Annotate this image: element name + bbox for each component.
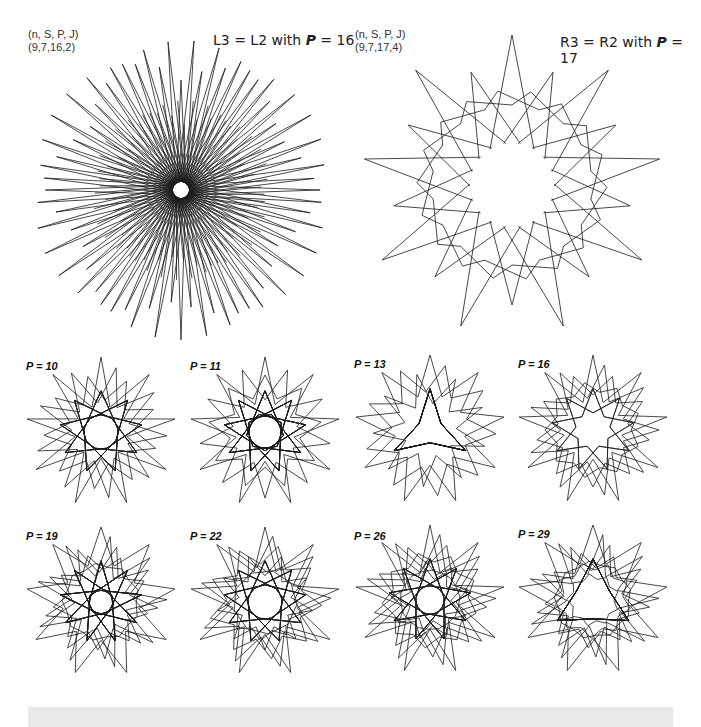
label-p26: P = 26 bbox=[354, 530, 386, 542]
param-header: (n, S, P, J) bbox=[28, 28, 79, 41]
figure-p19 bbox=[27, 527, 175, 673]
label-p16: P = 16 bbox=[518, 358, 550, 370]
figure-p19-layer bbox=[27, 527, 175, 673]
figure-r3-point bbox=[504, 72, 553, 159]
title-prefix: L3 = L2 with bbox=[213, 32, 306, 48]
figure-p26-layer bbox=[356, 525, 504, 671]
figure-r3-kite bbox=[485, 260, 540, 279]
figure-r3-kite bbox=[581, 171, 607, 225]
figure-r3-point bbox=[543, 170, 630, 213]
figure-p10-layer bbox=[38, 368, 167, 498]
figure-r3-kite bbox=[485, 91, 540, 110]
figure-l3 bbox=[38, 41, 324, 340]
figure-r3-kite bbox=[512, 92, 564, 124]
top-left-params: (n, S, P, J) (9,7,16,2) bbox=[28, 28, 79, 54]
figure-canvas bbox=[0, 0, 701, 727]
top-right-title: R3 = R2 with P = 17 bbox=[560, 34, 701, 66]
label-p10: P = 10 bbox=[26, 360, 58, 372]
title-prefix: R3 = R2 with bbox=[560, 34, 657, 50]
figure-p26 bbox=[356, 525, 504, 671]
figure-r3-kite bbox=[461, 246, 513, 278]
figure-p11-layer bbox=[200, 370, 330, 498]
figure-r3-point bbox=[461, 211, 521, 326]
figure-r3-point bbox=[532, 184, 642, 260]
figure-l3-spike bbox=[38, 186, 175, 202]
figure-r3 bbox=[364, 35, 659, 326]
title-var: P bbox=[657, 34, 667, 50]
label-p19: P = 19 bbox=[26, 530, 58, 542]
figure-p16-layer bbox=[519, 355, 667, 501]
figure-r3-point bbox=[532, 125, 616, 186]
figure-p16 bbox=[519, 355, 667, 501]
figure-p19-web bbox=[60, 561, 141, 641]
figure-p29 bbox=[519, 525, 667, 671]
title-var: P bbox=[306, 32, 316, 48]
figure-p22-layer bbox=[234, 571, 297, 634]
title-suffix: = 16 bbox=[316, 32, 354, 48]
figure-r3-kite bbox=[512, 246, 564, 268]
figure-r3-point bbox=[471, 72, 520, 159]
figure-r3-kite bbox=[417, 145, 443, 199]
label-p22: P = 22 bbox=[190, 530, 222, 542]
figure-p22 bbox=[191, 527, 339, 673]
label-p13: P = 13 bbox=[354, 358, 386, 370]
figure-p10 bbox=[27, 357, 175, 503]
bottom-caption-bar bbox=[28, 707, 673, 727]
figure-r3-point bbox=[394, 170, 481, 213]
figure-p13 bbox=[356, 355, 504, 501]
figure-p29-layer bbox=[519, 525, 667, 671]
figure-p11 bbox=[191, 357, 339, 503]
figure-l3-spike bbox=[95, 104, 179, 188]
label-p11: P = 11 bbox=[190, 360, 221, 372]
figure-r3-point bbox=[416, 70, 506, 172]
label-p29: P = 29 bbox=[518, 528, 550, 540]
figure-r3-point bbox=[518, 70, 608, 172]
figure-p11-layer bbox=[191, 357, 339, 503]
figure-p13-layer bbox=[356, 355, 504, 501]
figure-p26-layer bbox=[401, 570, 460, 629]
figure-p11-web bbox=[224, 391, 305, 471]
param-values: (9,7,17,4) bbox=[355, 41, 406, 54]
top-right-params: (n, S, P, J) (9,7,17,4) bbox=[355, 28, 406, 54]
figure-p10-layer bbox=[27, 357, 175, 503]
param-values: (9,7,16,2) bbox=[28, 41, 79, 54]
figure-p29-layer bbox=[537, 546, 649, 657]
param-header: (n, S, P, J) bbox=[355, 28, 406, 41]
figure-p29-layer bbox=[567, 574, 618, 626]
top-left-title: L3 = L2 with P = 16 bbox=[213, 32, 354, 48]
